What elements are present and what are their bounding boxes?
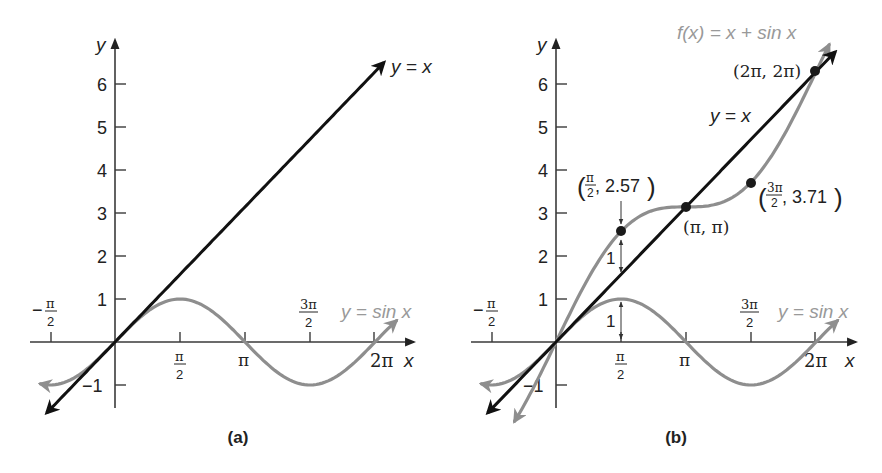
pi-2-num: π bbox=[616, 349, 625, 364]
key-points bbox=[616, 66, 820, 236]
sine-label: y = sin x bbox=[339, 301, 413, 322]
neg-pi-num: π bbox=[46, 296, 55, 311]
sum-curve bbox=[515, 45, 830, 421]
three-pi-2-num: 3π bbox=[741, 297, 758, 312]
three-pi-2-den: 2 bbox=[305, 315, 312, 330]
three-pi-2-num: 3π bbox=[300, 297, 317, 312]
point-label-4: (2π, 2π) bbox=[733, 61, 801, 81]
neg-pi-den: 2 bbox=[488, 314, 495, 329]
svg-text:): ) bbox=[647, 172, 656, 202]
y-tick-2: 2 bbox=[538, 247, 548, 267]
gap-upper-label: 1 bbox=[606, 249, 615, 268]
identity-line-label: y = x bbox=[389, 56, 433, 77]
two-pi-label: 2π bbox=[804, 350, 827, 371]
y-axis-label: y bbox=[535, 34, 548, 55]
svg-text:, 2.57: , 2.57 bbox=[595, 176, 640, 196]
caption-b: (b) bbox=[665, 428, 687, 447]
x-ticks bbox=[492, 332, 815, 342]
point-label-2: (π, π) bbox=[683, 217, 729, 237]
caption-a: (a) bbox=[228, 428, 249, 447]
gap-lower-label: 1 bbox=[606, 312, 615, 331]
identity-line bbox=[47, 63, 384, 413]
point-3pi-2 bbox=[746, 178, 756, 188]
pi-2-den: 2 bbox=[617, 367, 624, 382]
x-axis-label: x bbox=[403, 350, 415, 371]
sum-label: f(x) = x + sin x bbox=[677, 22, 798, 43]
pi-2-num: π bbox=[175, 349, 184, 364]
svg-text:(: ( bbox=[577, 172, 586, 202]
identity-line-label: y = x bbox=[708, 105, 752, 126]
three-pi-2-den: 2 bbox=[746, 315, 753, 330]
y-tick-labels: 6 5 4 3 2 1 −1 bbox=[82, 75, 107, 396]
y-tick-3: 3 bbox=[97, 204, 107, 224]
pi-label: π bbox=[238, 350, 249, 370]
svg-text:, 3.71: , 3.71 bbox=[782, 187, 827, 207]
svg-text:π: π bbox=[586, 171, 594, 185]
y-tick-5: 5 bbox=[97, 118, 107, 138]
y-tick-1: 1 bbox=[538, 290, 548, 310]
figure-svg: 6 5 4 3 2 1 −1 − π 2 π 2 π 3π 2 bbox=[0, 0, 882, 473]
x-axis-label: x bbox=[844, 350, 856, 371]
x-ticks bbox=[51, 332, 374, 342]
neg-sign: − bbox=[473, 300, 484, 320]
y-tick-4: 4 bbox=[538, 161, 548, 181]
gap-markers: 1 1 bbox=[606, 201, 621, 339]
neg-pi-den: 2 bbox=[47, 314, 54, 329]
y-axis-label: y bbox=[94, 34, 107, 55]
point-pi bbox=[681, 202, 691, 212]
svg-text:): ) bbox=[834, 183, 843, 213]
y-tick-3: 3 bbox=[538, 204, 548, 224]
y-tick-labels: 6 5 4 3 2 1 −1 bbox=[523, 75, 548, 396]
y-tick-1: 1 bbox=[97, 290, 107, 310]
two-pi-label: 2π bbox=[370, 350, 393, 371]
y-tick-neg1: −1 bbox=[82, 376, 103, 396]
neg-pi-num: π bbox=[487, 296, 496, 311]
svg-text:3π: 3π bbox=[767, 181, 783, 195]
svg-text:(: ( bbox=[758, 183, 767, 213]
y-tick-5: 5 bbox=[538, 118, 548, 138]
panel-b: 6 5 4 3 2 1 −1 − π 2 π 2 π 3π 2 bbox=[471, 22, 856, 447]
svg-text:2: 2 bbox=[587, 186, 594, 200]
point-label-3: ( 3π 2 , 3.71 ) bbox=[758, 181, 843, 213]
point-label-1: ( π 2 , 2.57 ) bbox=[577, 171, 656, 202]
svg-text:2: 2 bbox=[771, 196, 778, 210]
neg-sign: − bbox=[32, 300, 43, 320]
figure: 6 5 4 3 2 1 −1 − π 2 π 2 π 3π 2 bbox=[0, 0, 882, 473]
pi-2-den: 2 bbox=[176, 367, 183, 382]
y-tick-6: 6 bbox=[538, 75, 548, 95]
point-pi-2 bbox=[616, 226, 626, 236]
point-2pi bbox=[810, 66, 820, 76]
identity-line bbox=[488, 52, 836, 413]
y-tick-2: 2 bbox=[97, 247, 107, 267]
panel-a: 6 5 4 3 2 1 −1 − π 2 π 2 π 3π 2 bbox=[30, 34, 433, 447]
y-tick-6: 6 bbox=[97, 75, 107, 95]
sine-label: y = sin x bbox=[776, 301, 850, 322]
y-tick-4: 4 bbox=[97, 161, 107, 181]
pi-label: π bbox=[679, 350, 690, 370]
